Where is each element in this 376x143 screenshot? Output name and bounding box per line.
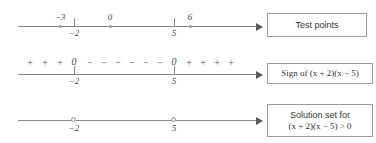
open-circle-5: [171, 117, 176, 122]
callout-solution-set-line-1: Solution set for: [290, 110, 350, 121]
tick-mark-neg2: [74, 18, 75, 27]
axis-arrowhead-test-points: [256, 23, 263, 31]
sign-symbol-14: +: [214, 58, 220, 68]
callout-solution-set-line-2: (x + 2)(x − 5) > 0: [288, 121, 351, 132]
axis-line-solution-set: [18, 120, 258, 121]
sign-symbol-5: −: [87, 58, 93, 68]
sign-symbol-15: +: [228, 58, 234, 68]
test-point-label-6: 6: [188, 12, 193, 22]
tick-mark-sign-neg2: [74, 66, 75, 75]
sign-symbol-3: +: [57, 58, 63, 68]
solution-label-5: 5: [172, 123, 177, 133]
test-point-label-0: 0: [108, 12, 113, 22]
sign-symbol-13: +: [200, 58, 206, 68]
sign-symbol-zero-5: 0: [172, 57, 177, 67]
tick-label-5: 5: [172, 28, 177, 38]
callout-sign: Sign of (x + 2)(x − 5): [267, 63, 373, 84]
sign-symbol-6: −: [101, 58, 107, 68]
tick-mark-sign-5: [174, 66, 175, 75]
sign-symbol-7: −: [115, 58, 121, 68]
figure-canvas: −2 5 −3 0 6 Test points −2 5 + + + 0 − −…: [0, 0, 376, 143]
tick-label-neg2: −2: [69, 28, 80, 38]
callout-sign-line-1: Sign of (x + 2)(x − 5): [281, 68, 359, 79]
test-point-dot-neg3: [59, 25, 62, 28]
tick-label-sign-neg2: −2: [69, 76, 80, 86]
number-line-test-points: −2 5 −3 0 6 Test points: [0, 0, 376, 47]
callout-test-points: Test points: [267, 13, 367, 37]
sign-symbol-zero-neg2: 0: [72, 57, 77, 67]
sign-symbol-2: +: [42, 58, 48, 68]
test-point-dot-6: [189, 25, 192, 28]
axis-arrowhead-solution-set: [256, 117, 263, 125]
open-circle-neg2: [71, 117, 76, 122]
callout-test-points-line-1: Test points: [295, 20, 338, 31]
axis-arrowhead-sign: [256, 71, 263, 79]
sign-symbol-12: +: [186, 58, 192, 68]
sign-symbol-8: −: [129, 58, 135, 68]
sign-symbol-1: +: [27, 58, 33, 68]
axis-line-sign: [18, 74, 258, 75]
number-line-sign: −2 5 + + + 0 − − − − − − 0 + + + + Sign …: [0, 48, 376, 95]
number-line-solution-set: −2 5 Solution set for (x + 2)(x − 5) > 0: [0, 96, 376, 143]
solution-label-neg2: −2: [69, 123, 80, 133]
tick-label-sign-5: 5: [172, 76, 177, 86]
tick-mark-5: [174, 18, 175, 27]
sign-symbol-9: −: [143, 58, 149, 68]
test-point-dot-0: [109, 25, 112, 28]
test-point-label-neg3: −3: [55, 12, 66, 22]
axis-line-test-points: [18, 26, 258, 27]
callout-solution-set: Solution set for (x + 2)(x − 5) > 0: [267, 104, 373, 137]
sign-symbol-10: −: [157, 58, 163, 68]
